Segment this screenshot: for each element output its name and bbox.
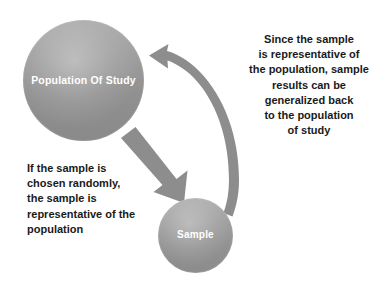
node-population-of-study: Population Of Study — [23, 20, 144, 141]
annotation-generalization-note: Since the sample is representative of th… — [231, 32, 387, 138]
diagram-canvas: Population Of Study Sample If the sample… — [0, 0, 391, 289]
annotation-sampling-note: If the sample is chosen randomly, the sa… — [27, 161, 177, 237]
node-sample-label: Sample — [177, 229, 214, 242]
node-population-label: Population Of Study — [31, 74, 136, 87]
